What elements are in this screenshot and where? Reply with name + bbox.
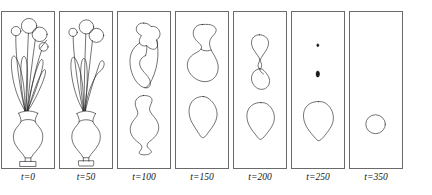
panel-label-t350: t=350 [348, 172, 404, 182]
panel-label-t200: t=200 [232, 172, 288, 182]
lower-rounded-blob [303, 102, 333, 141]
middle-dot [316, 71, 320, 77]
panel-frame-t250 [291, 11, 345, 169]
upper-teardrop [251, 35, 268, 60]
blossom-small-left-icon [69, 28, 77, 36]
blossom-large-right-icon [32, 27, 47, 41]
curve-plot-t250 [292, 12, 344, 168]
stem-left [16, 36, 25, 111]
curve-plot-t150 [176, 12, 228, 168]
curve-plot-t100 [118, 12, 170, 168]
panel-t250: t=250 [290, 0, 348, 195]
panel-frame-t50 [59, 11, 113, 169]
panel-label-t0: t=0 [0, 172, 56, 182]
vase-neck-left [21, 120, 35, 122]
panel-frame-t100 [117, 11, 171, 169]
final-circle [366, 115, 386, 134]
upper-blob-inner-notch [146, 46, 147, 56]
panel-label-t150: t=150 [174, 172, 230, 182]
panel-frame-t0 [1, 11, 55, 169]
lower-rounded-blob [247, 103, 274, 140]
panel-label-t100: t=100 [116, 172, 172, 182]
upper-merged-blob [136, 23, 160, 49]
stem-top [84, 34, 86, 111]
panel-t200: t=200 [232, 0, 290, 195]
stem-right [85, 41, 92, 111]
vase-neck-left [79, 120, 93, 122]
blossom-large-top-icon [79, 20, 94, 34]
panel-label-t250: t=250 [290, 172, 346, 182]
panel-t350: t=350 [348, 0, 406, 195]
panel-t150: t=150 [174, 0, 232, 195]
upper-dot [317, 44, 319, 47]
blossom-large-top-icon [21, 18, 36, 33]
lower-rounded-blob [189, 97, 217, 138]
pinch-neck [258, 60, 260, 69]
curve-plot-t50 [60, 12, 112, 168]
lower-vase-blob [130, 96, 158, 155]
leaf-right-hooked [85, 61, 104, 111]
vase-base [20, 161, 36, 166]
blossom-small-left-icon [11, 26, 21, 35]
curve-plot-t350 [350, 12, 402, 168]
panel-row: t=0 [0, 0, 432, 195]
figure-root: t=0 [0, 0, 432, 195]
panel-t0: t=0 [0, 0, 58, 195]
panel-frame-t200 [233, 11, 287, 169]
stem-left [73, 36, 83, 110]
panel-frame-t350 [349, 11, 403, 169]
upper-blob-left-tail [130, 43, 150, 88]
upper-s-blob-notch [201, 49, 211, 51]
vase-rim [19, 111, 38, 113]
curve-plot-t0 [2, 12, 54, 168]
vase-base [78, 161, 93, 166]
vase-rim [77, 111, 96, 113]
pinch-neck-right [260, 60, 262, 69]
panel-t100: t=100 [116, 0, 174, 195]
panel-t50: t=50 [58, 0, 116, 195]
upper-s-blob [187, 24, 218, 81]
panel-label-t50: t=50 [58, 172, 114, 182]
panel-frame-t150 [175, 11, 229, 169]
curve-plot-t200 [234, 12, 286, 168]
blossom-large-right-icon [89, 28, 104, 42]
